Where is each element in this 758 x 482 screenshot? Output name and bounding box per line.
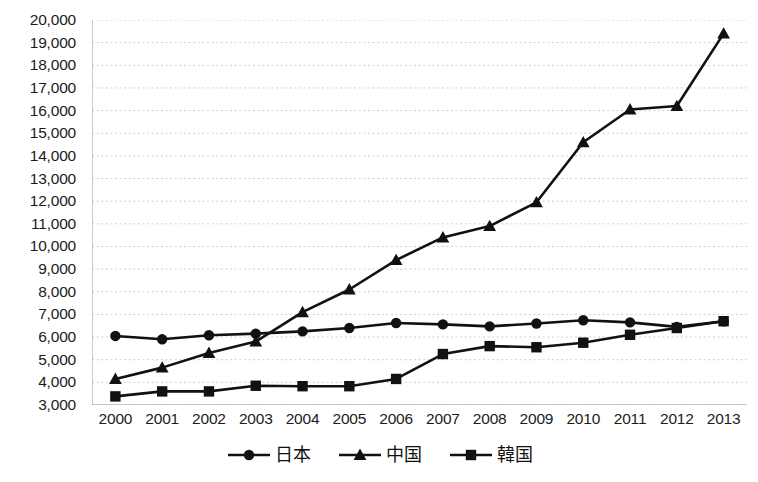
y-tick-label: 20,000 [30,12,76,28]
y-tick-label: 19,000 [30,35,76,51]
line-chart: 20,00019,00018,00017,00016,00015,00014,0… [0,0,758,482]
plot-area [92,20,747,405]
triangle-marker-icon [483,220,496,231]
x-tick-label: 2001 [145,410,179,428]
y-tick-label: 11,000 [31,216,76,232]
y-tick-label: 10,000 [30,238,76,254]
x-tick-label: 2002 [192,410,226,428]
x-tick-label: 2004 [286,410,320,428]
y-tick-label: 8,000 [38,284,76,300]
x-tick-label: 2012 [660,410,694,428]
series-韓国 [110,316,729,402]
circle-marker-icon [110,331,120,341]
square-marker-icon [531,342,541,352]
triangle-marker-icon [390,254,403,265]
y-tick-label: 17,000 [30,80,76,96]
triangle-marker-icon [717,27,730,38]
y-tick-label: 13,000 [30,171,76,187]
y-tick-label: 16,000 [30,103,76,119]
square-marker-icon [110,391,120,401]
x-tick-label: 2003 [239,410,273,428]
y-tick-label: 5,000 [38,352,76,368]
y-tick-label: 18,000 [30,57,76,73]
x-tick-label: 2007 [426,410,460,428]
x-tick-label: 2006 [379,410,413,428]
legend-label: 日本 [275,446,311,464]
square-marker-icon [438,349,448,359]
triangle-marker-icon [296,306,309,317]
y-tick-label: 14,000 [30,148,76,164]
circle-marker-icon [297,326,307,336]
legend-entry-中国[interactable]: 中国 [337,446,422,464]
x-tick-label: 2000 [99,410,133,428]
y-axis-labels: 20,00019,00018,00017,00016,00015,00014,0… [0,0,86,425]
chart-legend: 日本中国韓国 [0,441,758,469]
square-marker-icon [297,381,307,391]
square-marker-icon [672,323,682,333]
circle-marker-icon [438,319,448,329]
square-marker-icon [344,381,354,391]
circle-marker-icon [226,446,272,464]
circle-marker-icon [625,317,635,327]
square-marker-icon [204,386,214,396]
triangle-marker-icon [249,335,262,346]
square-marker-icon [578,338,588,348]
circle-marker-icon [531,318,541,328]
square-marker-icon [391,374,401,384]
square-marker-icon [484,341,494,351]
circle-marker-icon [344,323,354,333]
circle-marker-icon [391,318,401,328]
y-tick-label: 12,000 [30,193,76,209]
x-axis-labels: 2000200120022003200420052006200720082009… [92,410,747,434]
circle-marker-icon [157,334,167,344]
x-tick-label: 2013 [707,410,741,428]
triangle-marker-icon [337,446,383,464]
series-日本 [110,315,729,344]
y-tick-label: 4,000 [38,374,76,390]
y-tick-label: 15,000 [30,125,76,141]
y-tick-label: 7,000 [38,306,76,322]
square-marker-icon [157,386,167,396]
data-series [92,20,747,405]
x-tick-label: 2005 [332,410,366,428]
legend-label: 中国 [386,446,422,464]
circle-marker-icon [578,315,588,325]
y-tick-label: 9,000 [38,261,76,277]
square-marker-icon [448,446,494,464]
square-marker-icon [718,316,728,326]
circle-marker-icon [484,321,494,331]
x-tick-label: 2010 [566,410,600,428]
legend-entry-日本[interactable]: 日本 [226,446,311,464]
y-tick-label: 6,000 [38,329,76,345]
circle-marker-icon [204,330,214,340]
y-tick-label: 3,000 [38,397,76,413]
square-marker-icon [625,330,635,340]
x-tick-label: 2008 [473,410,507,428]
x-tick-label: 2011 [614,410,647,428]
triangle-marker-icon [343,283,356,294]
square-marker-icon [251,381,261,391]
x-tick-label: 2009 [520,410,554,428]
legend-label: 韓国 [497,446,533,464]
series-中国 [109,27,730,384]
square-marker-icon [465,450,475,460]
series-line [115,34,723,379]
legend-entry-韓国[interactable]: 韓国 [448,446,533,464]
circle-marker-icon [243,450,253,460]
